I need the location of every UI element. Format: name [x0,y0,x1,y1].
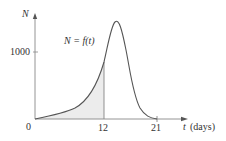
x-tick-label-12: 12 [98,122,108,133]
curve-label: N = f(t) [63,35,95,47]
x-tick-label-21: 21 [151,122,161,133]
x-axis-unit-label: (days) [190,121,215,133]
origin-label: 0 [26,121,31,132]
y-tick-label-1000: 1000 [10,46,30,57]
y-axis-label: N [21,8,30,19]
y-axis-arrow-icon [33,13,37,19]
x-axis-var-label: t [183,121,186,132]
chart: N 1000 0 12 21 t (days) N = f(t) [0,0,226,141]
